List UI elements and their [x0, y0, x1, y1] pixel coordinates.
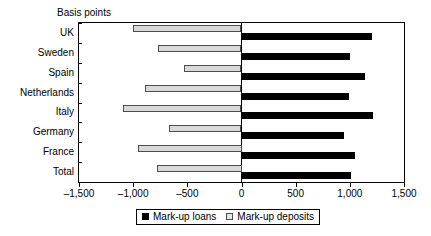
category-label-spain: Spain — [48, 67, 74, 78]
bar-loans — [242, 33, 372, 40]
category-tick — [79, 23, 82, 24]
category-tick — [79, 43, 82, 44]
category-tick — [79, 83, 82, 84]
bar-loans — [242, 152, 356, 159]
x-tick-label: –1,000 — [118, 188, 149, 200]
x-tick-label: –1,500 — [64, 188, 95, 200]
category-tick — [79, 122, 82, 123]
bar-loans — [242, 112, 373, 119]
legend-swatch-loans-icon — [142, 213, 149, 220]
x-tick-label: 0 — [239, 188, 245, 200]
category-tick — [79, 142, 82, 143]
category-label-sweden: Sweden — [38, 47, 74, 58]
category-label-germany: Germany — [33, 126, 74, 137]
category-label-netherlands: Netherlands — [20, 87, 74, 98]
x-tick — [79, 183, 80, 187]
bar-loans — [242, 172, 351, 179]
x-tick — [350, 183, 351, 187]
bar-deposits — [145, 85, 241, 92]
bar-loans — [242, 53, 350, 60]
legend-item-loans: Mark-up loans — [142, 211, 216, 222]
x-tick-label: –500 — [176, 188, 198, 200]
x-tick — [242, 183, 243, 187]
bar-deposits — [157, 165, 242, 172]
legend-item-deposits: Mark-up deposits — [226, 211, 314, 222]
category-label-italy: Italy — [56, 106, 74, 117]
category-label-france: France — [43, 146, 74, 157]
x-tick — [187, 183, 188, 187]
x-tick-label: 1,000 — [337, 188, 362, 200]
category-label-uk: UK — [60, 27, 74, 38]
plot-area — [78, 22, 405, 183]
x-tick-label: 500 — [287, 188, 304, 200]
bar-loans — [242, 93, 349, 100]
x-tick — [404, 183, 405, 187]
category-tick — [79, 162, 82, 163]
legend-swatch-deposits-icon — [226, 213, 233, 220]
legend-label-deposits: Mark-up deposits — [237, 211, 314, 222]
category-tick — [79, 103, 82, 104]
bar-deposits — [158, 45, 241, 52]
bar-chart: Basis points UKSwedenSpainNetherlandsIta… — [0, 0, 431, 236]
category-tick — [79, 63, 82, 64]
bar-deposits — [123, 105, 241, 112]
x-tick-label: 1,500 — [391, 188, 416, 200]
category-label-total: Total — [53, 166, 74, 177]
bar-deposits — [184, 65, 241, 72]
bar-deposits — [133, 25, 241, 32]
bar-deposits — [169, 125, 242, 132]
legend: Mark-up loans Mark-up deposits — [136, 209, 320, 225]
bar-loans — [242, 73, 366, 80]
bar-deposits — [138, 145, 242, 152]
bar-loans — [242, 132, 345, 139]
x-tick — [133, 183, 134, 187]
axis-title: Basis points — [57, 7, 111, 19]
legend-label-loans: Mark-up loans — [153, 211, 216, 222]
x-tick — [296, 183, 297, 187]
